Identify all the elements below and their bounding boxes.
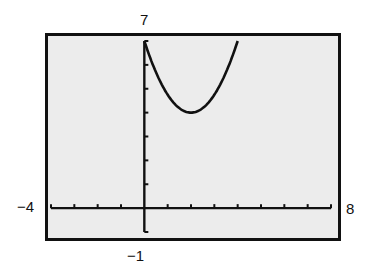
graph-plot [0, 0, 366, 279]
axis-ticks [51, 41, 331, 232]
function-curve [144, 41, 237, 113]
axes [51, 41, 331, 232]
